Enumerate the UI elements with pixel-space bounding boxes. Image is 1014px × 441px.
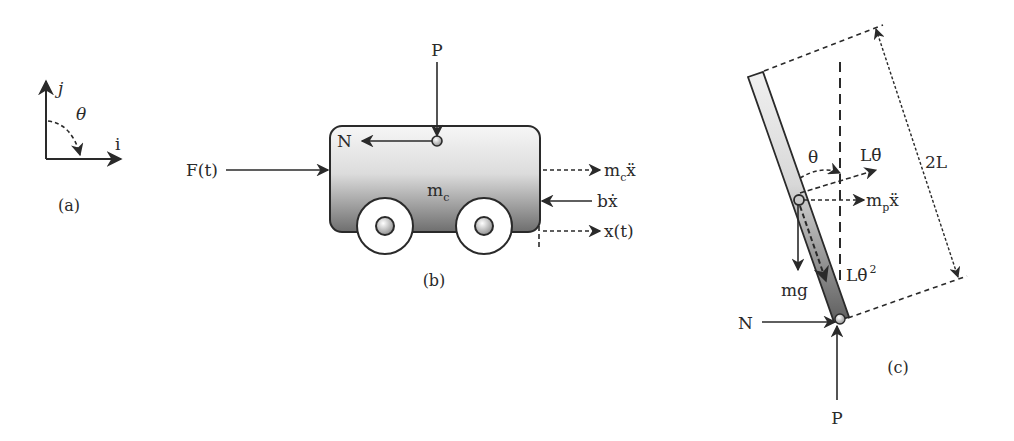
cart-wheel-right [456, 198, 512, 254]
force-n-label: N [337, 131, 352, 151]
theta-label: θ [76, 104, 86, 124]
force-n-label: N [738, 313, 753, 333]
caption-c: (c) [887, 358, 908, 377]
caption-b: (b) [423, 271, 446, 290]
panel-a-coordinate-frame: j i θ (a) [46, 78, 121, 215]
force-f-label: F(t) [186, 160, 218, 180]
pendulum-inertia-label: mpẍ [866, 190, 899, 214]
panel-b-cart: P N F(t) mc mcẍ bẋ x(t) (b) [186, 40, 636, 290]
i-axis-label: i [115, 134, 121, 154]
caption-a: (a) [58, 196, 80, 215]
weight-label: mg [781, 280, 808, 300]
force-p-label: P [831, 408, 842, 428]
tangential-accel-label: Lθ̈ [860, 145, 882, 165]
theta-arc-arrow [800, 170, 840, 178]
force-p-label: P [431, 40, 442, 60]
rod-top-extension [764, 25, 883, 71]
cart-wheel-left [357, 198, 413, 254]
damping-force-label: bẋ [597, 191, 618, 211]
j-axis-label: j [54, 78, 64, 98]
centripetal-accel-label: Lθ̇2 [846, 263, 877, 285]
theta-arc-arrow [48, 121, 80, 155]
length-label: 2L [925, 152, 947, 172]
pendulum-pivot [835, 314, 845, 324]
displacement-label: x(t) [604, 221, 634, 241]
diagram-canvas: j i θ (a) P N F(t) mc [0, 0, 1014, 441]
panel-c-pendulum: 2L θ Lθ̈ mpẍ Lθ̇2 mg N P (c) [738, 25, 967, 428]
inertia-force-label: mcẍ [604, 160, 636, 184]
theta-label: θ [808, 147, 818, 167]
cart-pivot [432, 136, 442, 146]
tangential-accel-arrow [800, 170, 876, 193]
